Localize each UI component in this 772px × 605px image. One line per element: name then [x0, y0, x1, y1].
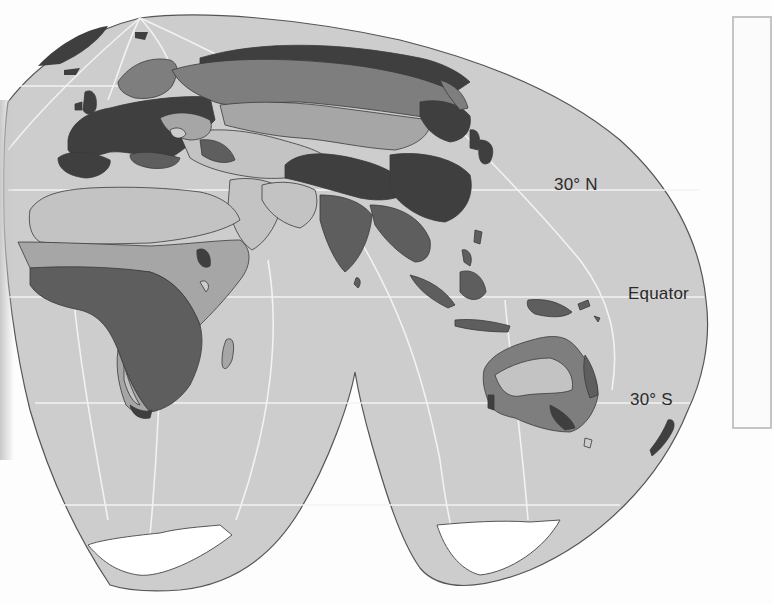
legend-box	[732, 16, 772, 429]
latitude-label-30s: 30° S	[630, 391, 673, 408]
latitude-label-equator: Equator	[628, 285, 689, 302]
page-edge-shadow	[0, 100, 14, 460]
latitude-label-30n: 30° N	[554, 176, 598, 193]
